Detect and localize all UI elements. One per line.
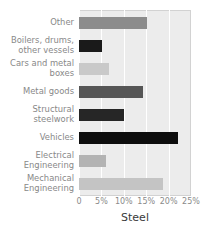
bar bbox=[79, 178, 163, 190]
category-label: Vehicles bbox=[0, 132, 74, 144]
x-tick-label: 15% bbox=[137, 197, 155, 206]
bar-series bbox=[79, 10, 191, 196]
category-label: Metal goods bbox=[0, 86, 74, 98]
bar bbox=[79, 155, 106, 167]
category-label: Boilers, drums, other vessels bbox=[0, 40, 74, 52]
bar bbox=[79, 17, 147, 29]
bar-row bbox=[79, 178, 191, 190]
bar-row bbox=[79, 17, 191, 29]
x-tick-label: 20% bbox=[160, 197, 178, 206]
bar bbox=[79, 86, 143, 98]
bar bbox=[79, 40, 102, 52]
x-axis-title: Steel bbox=[79, 211, 191, 224]
x-tick-label: 0 bbox=[76, 197, 81, 206]
category-label: Other bbox=[0, 17, 74, 29]
bar-row bbox=[79, 155, 191, 167]
category-axis-labels: OtherBoilers, drums, other vesselsCars a… bbox=[0, 10, 74, 196]
bar-row bbox=[79, 132, 191, 144]
category-label: Electrical Engineering bbox=[0, 155, 74, 167]
x-axis-ticks: 05%10%15%20%25% bbox=[79, 197, 191, 209]
bar bbox=[79, 63, 109, 75]
category-label: Structural steelwork bbox=[0, 109, 74, 121]
x-tick-label: 10% bbox=[115, 197, 133, 206]
bar-row bbox=[79, 40, 191, 52]
category-label: Cars and metal boxes bbox=[0, 63, 74, 75]
plot-area bbox=[79, 10, 191, 196]
bar-row bbox=[79, 63, 191, 75]
x-tick-label: 5% bbox=[95, 197, 108, 206]
gridline bbox=[191, 10, 192, 196]
bar bbox=[79, 132, 178, 144]
category-label: Mechanical Engineering bbox=[0, 178, 74, 190]
bar-chart: OtherBoilers, drums, other vesselsCars a… bbox=[0, 0, 202, 230]
bar-row bbox=[79, 86, 191, 98]
x-tick-label: 25% bbox=[182, 197, 200, 206]
bar bbox=[79, 109, 124, 121]
bar-row bbox=[79, 109, 191, 121]
